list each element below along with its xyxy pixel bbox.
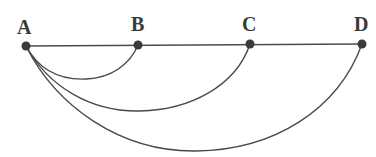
edge-line-a-d <box>26 44 362 46</box>
node-label-a: A <box>17 16 32 38</box>
node-a <box>22 42 31 51</box>
node-c <box>246 40 255 49</box>
graph-diagram: A B C D <box>0 0 376 157</box>
edge-arc-a-c <box>26 44 250 111</box>
node-d <box>358 40 367 49</box>
node-label-c: C <box>242 13 256 35</box>
node-label-d: D <box>354 13 368 35</box>
node-label-b: B <box>131 13 144 35</box>
node-b <box>134 41 143 50</box>
edge-arc-a-d <box>26 44 362 151</box>
